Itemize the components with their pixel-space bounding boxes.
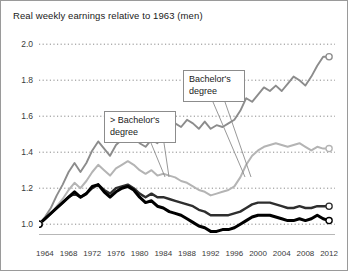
y-axis-tick-label: 1.4 xyxy=(9,147,33,157)
y-axis-tick-label: 1.0 xyxy=(9,219,33,229)
series-line xyxy=(39,143,329,224)
page-title: Real weekly earnings relative to 1963 (m… xyxy=(13,10,203,21)
x-axis-tick-label: 2012 xyxy=(314,249,344,258)
line-chart-svg xyxy=(39,37,335,235)
series-endpoint-marker xyxy=(326,203,332,209)
y-axis-tick-label: 1.8 xyxy=(9,75,33,85)
callout-above-bachelors: > Bachelor's degree xyxy=(104,111,176,143)
series-endpoint-marker xyxy=(326,146,332,152)
callout-above-bachelors-label: > Bachelor's degree xyxy=(110,115,160,137)
y-axis-tick-label: 1.6 xyxy=(9,111,33,121)
chart-panel: Real weekly earnings relative to 1963 (m… xyxy=(0,0,348,271)
y-axis-tick-label: 2.0 xyxy=(9,39,33,49)
callout-bachelors-label: Bachelor's degree xyxy=(189,74,231,96)
series-endpoint-marker xyxy=(39,221,42,227)
series-endpoint-marker xyxy=(326,218,332,224)
plot-area xyxy=(39,37,335,235)
series-endpoint-marker xyxy=(326,54,332,60)
callout-bachelors: Bachelor's degree xyxy=(183,70,245,102)
y-axis-tick-label: 1.2 xyxy=(9,183,33,193)
